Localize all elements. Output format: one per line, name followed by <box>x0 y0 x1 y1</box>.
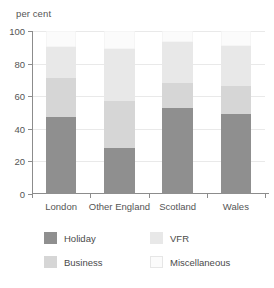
bar-stack <box>46 31 76 194</box>
legend-swatch <box>44 232 57 244</box>
bar-segment <box>104 49 134 101</box>
chart-legend: HolidayVFRBusinessMiscellaneous <box>44 226 256 274</box>
x-tick-label: London <box>45 201 77 212</box>
y-tick-label: 60 <box>14 91 25 102</box>
bar-segment <box>46 31 76 47</box>
x-tick-mark <box>149 194 150 198</box>
y-tick-label: 40 <box>14 123 25 134</box>
bar-segment <box>162 108 192 194</box>
x-tick-mark <box>90 194 91 198</box>
bar-segment <box>162 31 192 42</box>
legend-label: VFR <box>170 233 189 244</box>
y-tick-label: 20 <box>14 156 25 167</box>
y-tick-label: 80 <box>14 58 25 69</box>
legend-label: Holiday <box>64 233 96 244</box>
bar-segment <box>162 42 192 83</box>
y-tick-label: 100 <box>9 26 25 37</box>
bar-segment <box>46 47 76 78</box>
bar-segment <box>104 148 134 194</box>
bar-segment <box>104 31 134 49</box>
bar-segment <box>46 78 76 117</box>
legend-label: Miscellaneous <box>170 257 230 268</box>
legend-item[interactable]: Business <box>44 250 150 274</box>
x-tick-label: Other England <box>89 201 150 212</box>
legend-item[interactable]: VFR <box>150 226 256 250</box>
legend-label: Business <box>64 257 103 268</box>
stacked-bar-chart: per cent 020406080100 LondonOther Englan… <box>0 0 274 288</box>
legend-item[interactable]: Miscellaneous <box>150 250 256 274</box>
y-axis-title: per cent <box>16 8 51 19</box>
x-tick-mark <box>265 194 266 198</box>
y-tick-label: 0 <box>20 189 25 200</box>
plot-area: 020406080100 LondonOther EnglandScotland… <box>32 31 265 194</box>
bar-segment <box>162 83 192 107</box>
legend-swatch <box>150 232 163 244</box>
bar-segment <box>221 31 251 46</box>
x-tick-mark <box>207 194 208 198</box>
bar-segment <box>221 86 251 114</box>
bars-layer <box>32 31 265 194</box>
bar-stack <box>221 31 251 194</box>
bar-segment <box>46 117 76 194</box>
bar-segment <box>221 114 251 194</box>
bar-segment <box>104 101 134 148</box>
legend-swatch <box>150 256 163 268</box>
x-tick-mark <box>32 194 33 198</box>
x-tick-label: Scotland <box>159 201 196 212</box>
bar-stack <box>162 31 192 194</box>
legend-item[interactable]: Holiday <box>44 226 150 250</box>
bar-segment <box>221 46 251 87</box>
legend-swatch <box>44 256 57 268</box>
bar-stack <box>104 31 134 194</box>
x-tick-label: Wales <box>223 201 249 212</box>
